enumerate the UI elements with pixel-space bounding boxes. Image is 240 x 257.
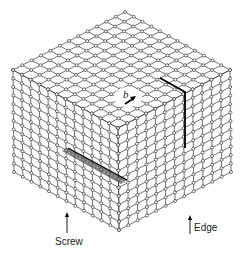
edge-label: Edge: [194, 222, 217, 233]
burgers-vector-label: b: [123, 88, 129, 100]
screw-label: Screw: [55, 236, 83, 247]
lattice-cube: [0, 0, 240, 257]
